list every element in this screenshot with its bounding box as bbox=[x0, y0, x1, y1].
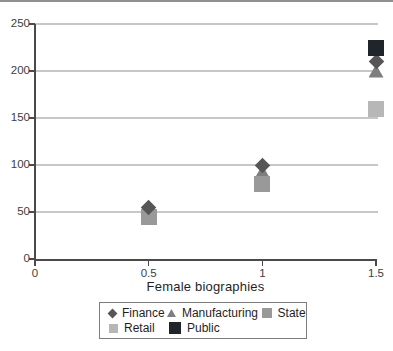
y-tick-label: 150 bbox=[0, 111, 30, 123]
x-tick-label: 1.5 bbox=[361, 267, 391, 279]
legend-row: FinanceManufacturingState bbox=[109, 306, 306, 320]
x-tick-label: 0 bbox=[20, 267, 50, 279]
chart-legend: FinanceManufacturingStateRetailPublic bbox=[99, 302, 307, 339]
legend-label: Manufacturing bbox=[182, 306, 258, 320]
legend-item-public: Public bbox=[169, 321, 267, 335]
y-axis-line bbox=[34, 24, 36, 260]
x-axis-tick bbox=[375, 260, 377, 266]
finance-diamond-icon bbox=[108, 308, 118, 318]
legend-row: RetailPublic bbox=[109, 321, 306, 335]
public-square-icon bbox=[169, 322, 181, 334]
legend-item-manufacturing: Manufacturing bbox=[167, 306, 262, 320]
legend-item-state: State bbox=[262, 306, 306, 320]
x-tick-label: 0.5 bbox=[134, 267, 164, 279]
x-axis-tick bbox=[34, 260, 36, 266]
legend-label: State bbox=[278, 306, 306, 320]
legend-label: Public bbox=[187, 321, 220, 335]
top-border-rule bbox=[0, 0, 393, 2]
x-axis-title: Female biographies bbox=[35, 279, 376, 294]
y-tick-label: 250 bbox=[0, 17, 30, 29]
legend-item-retail: Retail bbox=[109, 321, 169, 335]
y-tick-label: 0 bbox=[0, 252, 30, 264]
finance-marker bbox=[368, 54, 384, 70]
scatter-chart: 05010015020025000.511.5 Female biographi… bbox=[0, 0, 393, 351]
retail-square-icon bbox=[109, 324, 118, 333]
y-tick-label: 50 bbox=[0, 205, 30, 217]
y-tick-label: 100 bbox=[0, 158, 30, 170]
state-square-icon bbox=[262, 308, 272, 318]
x-axis-line bbox=[34, 259, 377, 261]
gridline bbox=[35, 23, 378, 25]
legend-label: Retail bbox=[124, 321, 155, 335]
retail-marker bbox=[368, 101, 384, 117]
state-marker bbox=[254, 176, 270, 192]
legend-label: Finance bbox=[122, 306, 165, 320]
gridline bbox=[35, 164, 378, 166]
x-axis-tick bbox=[148, 260, 150, 266]
finance-marker bbox=[255, 157, 271, 173]
gridline bbox=[35, 211, 378, 213]
public-marker bbox=[368, 40, 384, 56]
legend-item-finance: Finance bbox=[109, 306, 167, 320]
y-tick-label: 200 bbox=[0, 64, 30, 76]
x-tick-label: 1 bbox=[247, 267, 277, 279]
gridline bbox=[35, 70, 378, 72]
x-axis-tick bbox=[262, 260, 264, 266]
manufacturing-triangle-icon bbox=[167, 309, 176, 317]
gridline bbox=[35, 117, 378, 119]
